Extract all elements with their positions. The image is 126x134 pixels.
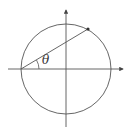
angle-label-theta: θ bbox=[42, 53, 50, 67]
angle-arc bbox=[37, 60, 40, 69]
chord-line bbox=[21, 29, 88, 69]
point-on-circle bbox=[86, 27, 89, 30]
circle-angle-diagram: θ bbox=[0, 0, 126, 134]
